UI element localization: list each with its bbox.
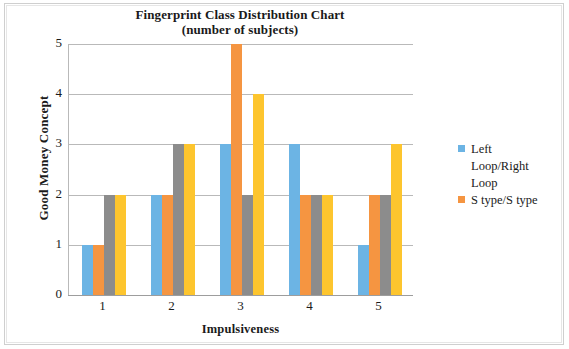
bar (184, 144, 195, 295)
bar (231, 44, 242, 295)
plot-area (68, 44, 413, 295)
bar (369, 195, 380, 295)
y-tick-label: 3 (32, 135, 62, 151)
y-axis-tick-labels: 543210 (28, 44, 62, 295)
bar (289, 144, 300, 295)
bar (104, 195, 115, 295)
bar (173, 144, 184, 295)
bar (162, 195, 173, 295)
chart-title: Fingerprint Class Distribution Chart (nu… (60, 7, 420, 37)
bar (115, 195, 126, 295)
bar (300, 195, 311, 295)
x-tick-label: 2 (137, 298, 206, 314)
bar (322, 195, 333, 295)
x-tick-label: 4 (275, 298, 344, 314)
y-tick-label: 0 (32, 286, 62, 302)
legend-swatch-orange (458, 196, 465, 203)
bar (82, 245, 93, 295)
x-tick-label: 1 (68, 298, 137, 314)
chart-title-subtitle: (number of subjects) (60, 22, 420, 37)
y-tick-label: 1 (32, 236, 62, 252)
legend-label-s-type: S type/S type (471, 193, 538, 207)
bar (253, 94, 264, 295)
legend-swatch-blue (458, 145, 465, 152)
chart-title-main: Fingerprint Class Distribution Chart (135, 7, 344, 22)
legend-item-s-type-s-type: S type/S type (458, 192, 566, 209)
x-axis-tick-labels: 12345 (68, 298, 413, 318)
bar (380, 195, 391, 295)
y-tick-label: 4 (32, 85, 62, 101)
chart-screenshot: Fingerprint Class Distribution Chart (nu… (0, 0, 569, 349)
x-axis-title: Impulsiveness (68, 322, 413, 337)
x-tick-label: 5 (344, 298, 413, 314)
legend-label-line3: Loop (458, 175, 566, 192)
bar (242, 195, 253, 295)
legend-label-line1: Left (471, 142, 492, 156)
legend-item-left-loop-right-loop: Left (458, 141, 566, 158)
y-tick-label: 2 (32, 186, 62, 202)
gridline-0 (68, 295, 413, 296)
x-tick-label: 3 (206, 298, 275, 314)
bar (93, 245, 104, 295)
y-tick-label: 5 (32, 35, 62, 51)
legend-label-line2: Loop/Right (458, 158, 566, 175)
bar (311, 195, 322, 295)
chart-legend: Left Loop/Right Loop S type/S type (458, 141, 566, 209)
bar (220, 144, 231, 295)
bar (358, 245, 369, 295)
bar (391, 144, 402, 295)
y-axis-line (68, 44, 69, 295)
bar (151, 195, 162, 295)
